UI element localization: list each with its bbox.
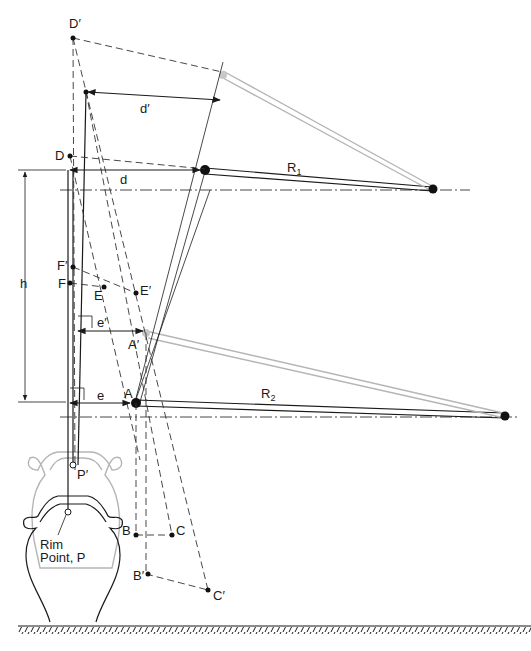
dash-F-to-E [70, 283, 104, 287]
point-D [68, 154, 73, 159]
right-angle-e [70, 388, 84, 400]
label-d-prime: d′ [140, 101, 150, 116]
dash-B-prime-to-C-prime [146, 574, 208, 590]
point-B-prime [146, 572, 151, 577]
d-prime-arm-line [78, 92, 86, 465]
ground [18, 626, 531, 634]
label-R2: R2 [261, 386, 275, 403]
point-E-prime [134, 291, 139, 296]
pivot-upper-fixed [429, 185, 438, 194]
right-angle-e-prime [78, 316, 92, 328]
dash-D-down [70, 156, 140, 460]
label-h: h [20, 276, 27, 291]
rim-point-leader [58, 515, 66, 535]
dash-D-prime-to-ghost [73, 38, 222, 72]
arm-R2-lowered [136, 400, 505, 418]
point-F [68, 281, 73, 286]
label-E-prime: E′ [140, 283, 152, 298]
label-E: E [94, 288, 103, 303]
label-e-prime: e′ [97, 315, 107, 330]
label-R1: R1 [287, 160, 301, 177]
arm-R2-raised-ghost [142, 329, 503, 417]
dash-D-to-joint [70, 156, 205, 169]
point-P [65, 509, 71, 515]
label-rim-point-2: Point, P [40, 550, 86, 565]
label-C-prime: C′ [213, 588, 225, 603]
label-F-prime: F′ [57, 258, 68, 273]
label-A: A [124, 386, 133, 401]
point-d-prime-end [84, 90, 89, 95]
label-e: e [97, 388, 104, 403]
label-C: C [176, 523, 185, 538]
label-D: D [55, 148, 64, 163]
label-B: B [122, 523, 131, 538]
pivot-lower-fixed [501, 412, 510, 421]
point-D-prime [71, 36, 76, 41]
label-F: F [58, 276, 66, 291]
linkage-diagram: D′ D d′ d R1 h F′ F E E′ e′ A′ e A R2 P′… [0, 0, 531, 651]
point-P-prime [70, 462, 76, 468]
label-A-prime: A′ [128, 337, 140, 352]
label-d: d [120, 172, 127, 187]
label-B-prime: B′ [133, 568, 145, 583]
d-prime-dimension [88, 92, 220, 100]
dash-d-prime-to-C [86, 92, 172, 535]
label-D-prime: D′ [69, 16, 81, 31]
point-C-prime [206, 588, 211, 593]
label-P-prime: P′ [77, 467, 89, 482]
point-F-prime [71, 265, 76, 270]
joint-upper-moving [200, 165, 210, 175]
point-B [134, 533, 139, 538]
point-C [170, 533, 175, 538]
arm-R1-lowered [205, 168, 432, 191]
